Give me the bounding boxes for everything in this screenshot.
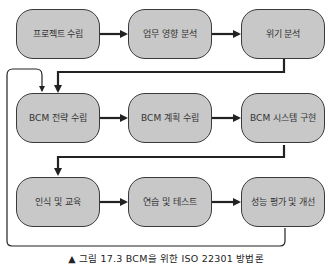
step-performance-evaluation: 성능 평가 및 개선: [241, 177, 325, 227]
step-awareness-training: 인식 및 교육: [16, 177, 100, 227]
step-project-setup: 프로젝트 수립: [16, 9, 100, 59]
step-bcm-strategy: BCM 전략 수립: [16, 93, 100, 143]
step-bcm-system-implementation: BCM 시스템 구현: [241, 93, 325, 143]
step-bcm-plan: BCM 계획 수립: [128, 93, 212, 143]
step-risk-analysis: 위기 분석: [241, 9, 325, 59]
step-business-impact-analysis: 업무 영향 분석: [128, 9, 212, 59]
step-exercise-test: 연습 및 테스트: [128, 177, 212, 227]
figure-caption: ▲ 그림 17.3 BCM을 위한 ISO 22301 방법론: [0, 251, 332, 265]
